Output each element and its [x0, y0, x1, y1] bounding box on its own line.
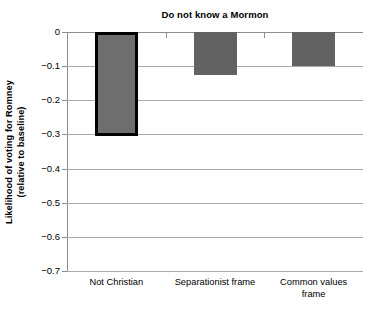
gridline [67, 169, 363, 170]
y-axis-tick-label: −0.5 [16, 198, 60, 208]
y-axis-tick-label: −0.4 [16, 164, 60, 174]
chart-title: Do not know a Mormon [67, 9, 363, 20]
x-axis-tick [166, 32, 167, 38]
bar-chart: Do not know a Mormon Likelihood of votin… [0, 0, 376, 310]
y-axis-tick-label: −0.2 [16, 95, 60, 105]
bar [194, 32, 237, 75]
gridline [67, 237, 363, 238]
x-axis-tick-label: Common values frame [268, 276, 359, 300]
bar [292, 32, 335, 66]
x-axis-tick-label: Separationist frame [170, 276, 261, 288]
x-axis-tick [264, 32, 265, 38]
y-axis-tick-labels: 0−0.1−0.2−0.3−0.4−0.5−0.6−0.7 [14, 0, 60, 310]
y-axis-tick-label: −0.6 [16, 232, 60, 242]
y-axis-tick-label: −0.3 [16, 129, 60, 139]
x-axis-tick-label: Not Christian [71, 276, 162, 288]
gridline [67, 203, 363, 204]
y-axis-tick-label: −0.1 [16, 61, 60, 71]
gridline [67, 271, 363, 272]
y-axis-tick-label: −0.7 [16, 266, 60, 276]
bar [95, 32, 138, 136]
y-axis-tick-label: 0 [16, 27, 60, 37]
x-axis-tick-labels: Not ChristianSeparationist frameCommon v… [67, 276, 363, 310]
plot-area [67, 32, 363, 271]
